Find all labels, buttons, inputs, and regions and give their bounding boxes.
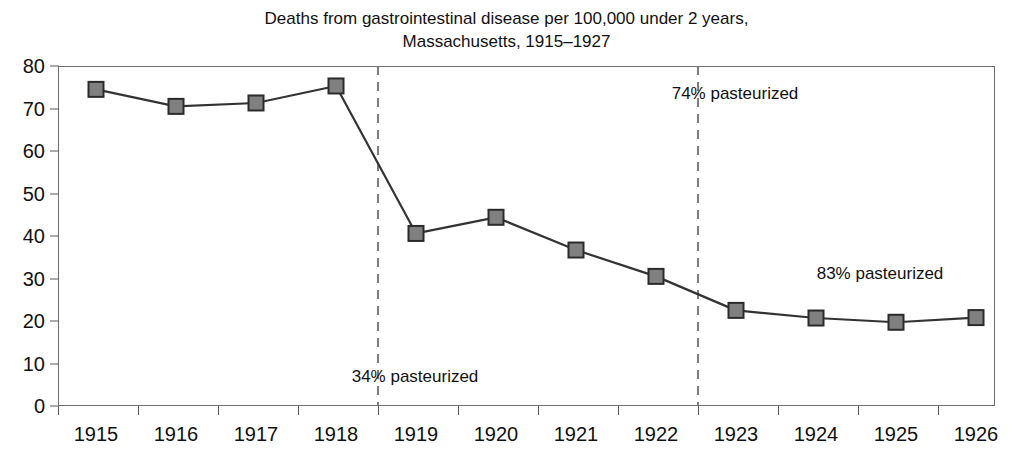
y-axis-tick-label: 0 — [34, 395, 45, 418]
x-axis-tick-label: 1915 — [74, 423, 119, 446]
x-axis-tick-mark — [138, 406, 139, 415]
chart-title: Deaths from gastrointestinal disease per… — [0, 7, 1013, 53]
y-axis-tick-label: 60 — [23, 140, 45, 163]
x-axis-tick-mark — [618, 406, 619, 415]
x-axis-tick-mark — [778, 406, 779, 415]
y-axis-tick-mark — [50, 193, 59, 194]
y-axis-tick-mark — [50, 363, 59, 364]
x-axis-tick-mark — [458, 406, 459, 415]
y-axis-tick-mark — [50, 151, 59, 152]
annotation-label: 74% pasteurized — [672, 84, 799, 104]
y-axis-tick-label: 30 — [23, 267, 45, 290]
y-axis-tick-label: 50 — [23, 182, 45, 205]
annotation-label: 34% pasteurized — [352, 367, 479, 387]
x-axis-tick-mark — [938, 406, 939, 415]
x-axis-tick-label: 1920 — [474, 423, 519, 446]
x-axis-tick-label: 1921 — [554, 423, 599, 446]
x-axis-tick-mark — [218, 406, 219, 415]
y-axis-tick-mark — [50, 108, 59, 109]
x-axis-tick-label: 1923 — [714, 423, 759, 446]
y-axis-tick-mark — [50, 66, 59, 67]
y-axis-tick-mark — [50, 278, 59, 279]
y-axis-tick-mark — [50, 321, 59, 322]
y-axis-tick-label: 20 — [23, 310, 45, 333]
x-axis-tick-label: 1917 — [234, 423, 279, 446]
x-axis-tick-label: 1924 — [794, 423, 839, 446]
y-axis-tick-label: 10 — [23, 352, 45, 375]
y-axis-tick-mark — [50, 236, 59, 237]
plot-area — [58, 66, 995, 406]
y-axis-tick-label: 70 — [23, 97, 45, 120]
x-axis-tick-mark — [58, 406, 59, 415]
x-axis-tick-label: 1919 — [394, 423, 439, 446]
x-axis-tick-label: 1922 — [634, 423, 679, 446]
x-axis-tick-label: 1925 — [874, 423, 919, 446]
x-axis-tick-label: 1926 — [954, 423, 999, 446]
x-axis-tick-mark — [698, 406, 699, 415]
x-axis-tick-label: 1918 — [314, 423, 359, 446]
x-axis-tick-mark — [858, 406, 859, 415]
x-axis-tick-mark — [298, 406, 299, 415]
annotation-label: 83% pasteurized — [817, 264, 944, 284]
y-axis: 01020304050607080 — [0, 0, 58, 470]
x-axis-tick-mark — [538, 406, 539, 415]
x-axis-tick-mark — [378, 406, 379, 415]
y-axis-tick-label: 80 — [23, 55, 45, 78]
x-axis-tick-label: 1916 — [154, 423, 199, 446]
y-axis-tick-label: 40 — [23, 225, 45, 248]
chart-container: Deaths from gastrointestinal disease per… — [0, 0, 1013, 470]
